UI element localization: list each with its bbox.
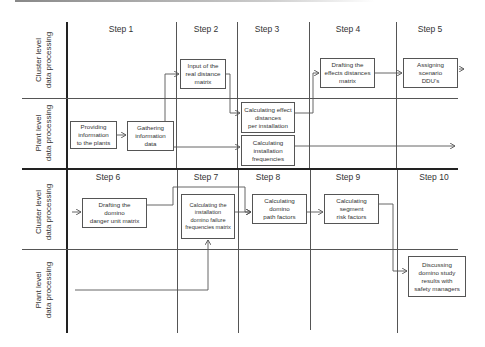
arrow-input-distance-to-effect-distances [226, 74, 240, 113]
flow-connectors [0, 0, 485, 347]
arrow-plant-to-failure-freq [75, 240, 208, 290]
arrow-effect-distances-to-effects-matrix [295, 73, 319, 113]
arrow-domino-matrix-to-path-factors [147, 187, 251, 212]
arrow-segment-risk-to-discussing [379, 204, 407, 271]
arrow-gathering-to-input-distance [165, 74, 179, 121]
